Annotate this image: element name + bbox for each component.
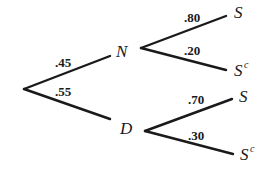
outcome-n-sc-superscript: c xyxy=(244,59,249,70)
outcome-d-sc: S xyxy=(240,145,249,164)
prob-d-sc: .30 xyxy=(188,128,204,143)
outcome-d-sc-superscript: c xyxy=(250,143,255,154)
outcome-d-s: S xyxy=(239,87,248,106)
outcome-n-s: S xyxy=(234,3,243,22)
prob-n-sc: .20 xyxy=(184,43,200,58)
outcome-n-sc: S xyxy=(234,61,243,80)
prob-d: .55 xyxy=(55,84,72,99)
node-d: D xyxy=(119,119,133,138)
probability-tree-diagram: .45 .55 N D .80 .20 S S c .70 .30 S S c xyxy=(0,0,268,170)
prob-n-s: .80 xyxy=(184,10,200,25)
prob-d-s: .70 xyxy=(188,92,204,107)
node-n: N xyxy=(115,42,129,61)
prob-n: .45 xyxy=(55,55,72,70)
